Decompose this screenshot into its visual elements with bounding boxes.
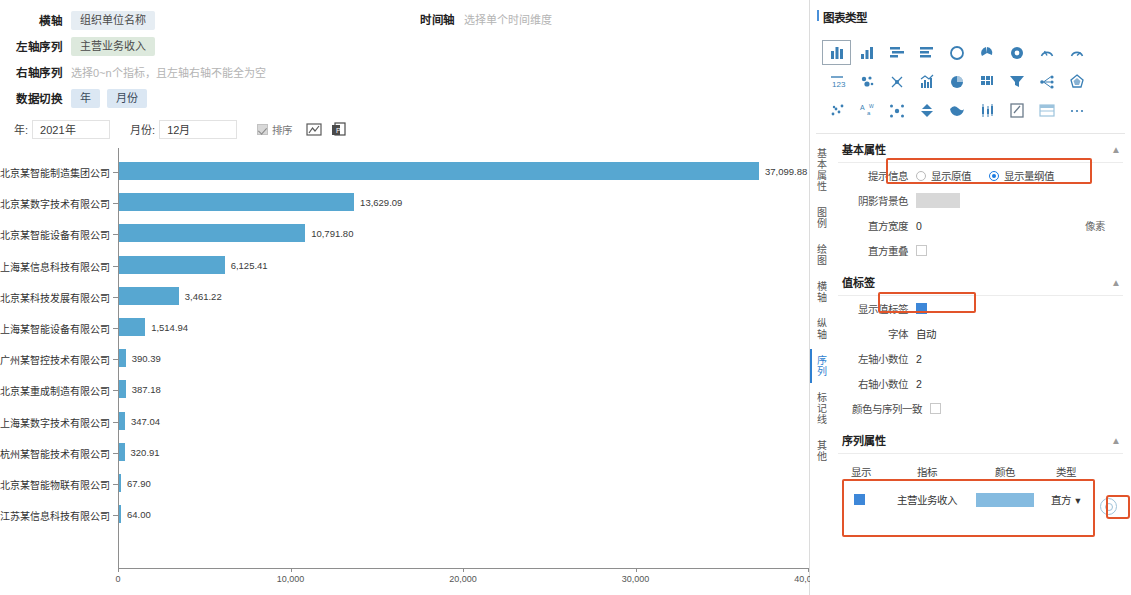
tree-chart-icon[interactable] (1032, 69, 1061, 94)
number-card-icon[interactable]: 123 (822, 69, 851, 94)
chevron-up-icon[interactable]: ▲ (1111, 144, 1121, 155)
year-filter-input[interactable]: 2021年 (32, 120, 110, 139)
time-axis-placeholder[interactable]: 选择单个时间维度 (464, 11, 552, 27)
stacked-bar-icon[interactable] (882, 40, 911, 65)
property-tab-其他[interactable]: 其他 (810, 434, 829, 468)
shadow-bg-color-swatch[interactable] (916, 193, 960, 208)
bar-category-label: 上海某智能设备有限公司 (0, 321, 110, 336)
bar[interactable] (119, 443, 125, 461)
half-gauge-icon[interactable] (1062, 40, 1091, 65)
x-tick-mark (808, 568, 809, 572)
color-match-checkbox[interactable] (930, 403, 941, 414)
edit-chart-icon[interactable] (1002, 98, 1031, 123)
month-filter-input[interactable]: 12月 (159, 120, 237, 139)
series-header-show: 显示 (838, 464, 884, 479)
category-tick (113, 266, 118, 267)
column-chart-icon[interactable] (852, 40, 881, 65)
pie-filled-icon[interactable] (942, 69, 971, 94)
bar[interactable] (119, 287, 179, 305)
table-icon[interactable] (1032, 98, 1061, 123)
bubble-chart-icon[interactable] (852, 69, 881, 94)
histogram-mix-icon[interactable] (912, 69, 941, 94)
chevron-up-icon-2[interactable]: ▲ (1111, 277, 1121, 288)
candlestick-icon[interactable] (972, 98, 1001, 123)
ring-chart-icon[interactable] (942, 40, 971, 65)
bar[interactable] (119, 256, 225, 274)
bar[interactable] (119, 380, 126, 398)
property-tab-图例[interactable]: 图例 (810, 201, 829, 235)
time-axis-config-row: 时间轴 选择单个时间维度 (420, 11, 552, 27)
x-axis-config-row: 横轴 组织单位名称 (0, 7, 809, 33)
bar-width-row: 直方宽度 0 像素 (838, 213, 1123, 238)
bar-value-label: 13,629.09 (360, 197, 402, 208)
bar[interactable] (119, 474, 121, 492)
bar[interactable] (119, 349, 126, 367)
tips-info-highlight (886, 158, 1092, 184)
bar-chart-icon[interactable] (822, 40, 851, 65)
map-icon[interactable] (942, 98, 971, 123)
export-chart-icon[interactable] (306, 122, 322, 137)
bar[interactable] (119, 318, 145, 336)
property-tab-序列[interactable]: 序列 (810, 349, 829, 383)
bar-row: 北京某数字技术有限公司13,629.09 (0, 189, 809, 220)
bar[interactable] (119, 224, 305, 242)
property-tab-横轴[interactable]: 横轴 (810, 275, 829, 309)
bar[interactable] (119, 193, 354, 211)
sort-checkbox[interactable] (257, 124, 268, 135)
funnel-icon[interactable] (1002, 69, 1031, 94)
bar-value-label: 347.04 (131, 416, 160, 427)
copy-to-doc-icon[interactable]: P (331, 122, 347, 137)
bar-row: 北京某科技发展有限公司3,461.22 (0, 283, 809, 314)
gauge-icon[interactable] (1032, 40, 1061, 65)
bar-row: 上海某数字技术有限公司347.04 (0, 408, 809, 439)
category-tick (113, 203, 118, 204)
relation-icon[interactable] (882, 98, 911, 123)
horizontal-bar-icon[interactable] (912, 40, 941, 65)
property-tab-纵轴[interactable]: 纵轴 (810, 312, 829, 346)
bar[interactable] (119, 162, 759, 180)
value-label-section-header[interactable]: 值标签 ▲ (838, 267, 1123, 295)
pyramid-icon[interactable] (912, 98, 941, 123)
bar-row: 北京某重成制造有限公司387.18 (0, 376, 809, 407)
scatter-icon[interactable] (822, 98, 851, 123)
month-filter-label: 月份: (130, 121, 155, 137)
left-series-field-pill[interactable]: 主营业务收入 (71, 37, 155, 56)
right-series-placeholder[interactable]: 选择0~n个指标，且左轴右轴不能全为空 (71, 64, 266, 80)
data-switch-option-year[interactable]: 年 (71, 89, 100, 108)
property-tab-绘图[interactable]: 绘图 (810, 238, 829, 272)
wordcloud-icon[interactable]: AaW (852, 98, 881, 123)
left-decimals-value[interactable]: 2 (916, 353, 922, 365)
matrix-icon[interactable] (972, 69, 1001, 94)
series-section-header[interactable]: 序列属性 ▲ (838, 425, 1123, 453)
gear-highlight (1106, 495, 1130, 519)
x-axis-field-pill[interactable]: 组织单位名称 (71, 11, 155, 30)
bar-width-value[interactable]: 0 (916, 220, 922, 232)
left-series-label: 左轴序列 (10, 38, 62, 54)
series-header-indicator: 指标 (884, 464, 970, 479)
chevron-up-icon-3[interactable]: ▲ (1111, 435, 1121, 446)
right-decimals-label: 右轴小数位 (838, 376, 916, 391)
year-filter-label: 年: (14, 121, 28, 137)
bar-overlap-checkbox[interactable] (916, 245, 927, 256)
bar-category-label: 上海某数字技术有限公司 (0, 415, 110, 430)
property-tab-基本属性[interactable]: 基本属性 (810, 142, 829, 198)
more-icon[interactable] (1062, 98, 1091, 123)
donut-chart-icon[interactable] (1002, 40, 1031, 65)
data-switch-option-month[interactable]: 月份 (107, 89, 147, 108)
font-value[interactable]: 自动 (916, 326, 936, 341)
bar[interactable] (119, 412, 125, 430)
bar-value-label: 67.90 (127, 478, 151, 489)
x-tick-mark (118, 568, 119, 572)
bar-category-label: 北京某智能制造集团公司 (0, 165, 110, 180)
right-decimals-value[interactable]: 2 (916, 378, 922, 390)
property-tab-标记线[interactable]: 标记线 (810, 386, 829, 431)
pie-chart-icon[interactable] (972, 40, 1001, 65)
bar[interactable] (119, 505, 121, 523)
font-row: 字体 自动 (838, 321, 1123, 346)
font-label: 字体 (838, 326, 916, 341)
radar-icon[interactable] (1062, 69, 1091, 94)
chart-type-title: 图表类型 (810, 0, 1131, 32)
bar-value-label: 3,461.22 (185, 291, 222, 302)
shadow-bg-row: 阴影背景色 (838, 188, 1123, 213)
network-chart-icon[interactable] (882, 69, 911, 94)
